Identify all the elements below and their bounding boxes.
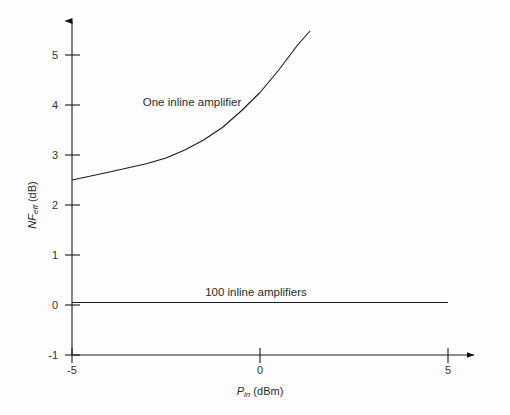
y-axis-unit: (dB) bbox=[26, 181, 38, 205]
x-tick-label-minus5: -5 bbox=[67, 364, 77, 376]
plot-canvas bbox=[0, 0, 510, 415]
y-tick-label-3: 3 bbox=[34, 149, 58, 161]
x-axis-title: Pin (dBm) bbox=[237, 385, 284, 399]
annotation-one-inline-amplifier: One inline amplifier bbox=[143, 96, 241, 108]
y-tick-label-4: 4 bbox=[34, 99, 58, 111]
chart-figure: -5 0 5 -1 0 1 2 3 4 5 Pin (dBm) NFeff (d… bbox=[0, 0, 510, 415]
y-tick-label-5: 5 bbox=[34, 49, 58, 61]
x-axis-unit: (dBm) bbox=[250, 385, 283, 397]
y-tick-label-0: 0 bbox=[34, 299, 58, 311]
x-tick-label-0: 0 bbox=[257, 364, 263, 376]
y-axis-symbol: NF bbox=[26, 214, 38, 229]
y-axis-title: NFeff (dB) bbox=[26, 181, 40, 228]
y-axis-subscript: eff bbox=[31, 205, 40, 214]
y-tick-label-minus1: -1 bbox=[34, 349, 58, 361]
annotation-100-inline-amplifiers: 100 inline amplifiers bbox=[205, 286, 307, 298]
x-tick-label-5: 5 bbox=[445, 364, 451, 376]
y-tick-label-1: 1 bbox=[34, 249, 58, 261]
